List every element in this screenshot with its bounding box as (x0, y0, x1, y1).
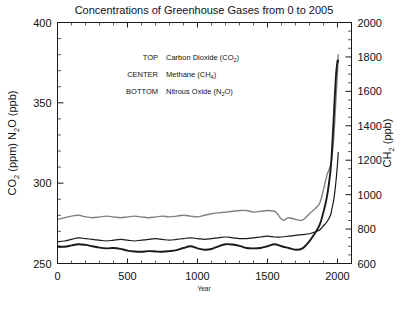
y-left-tick-label-0: 250 (33, 258, 51, 270)
y-right-tick-label-4: 1400 (358, 120, 382, 132)
y-left-tick-label-2: 350 (33, 97, 51, 109)
legend-position-key: CENTER (127, 70, 158, 79)
y-right-tick-label-0: 600 (358, 258, 376, 270)
x-tick-label-4: 2000 (325, 270, 349, 282)
legend-gas-label: Methane (CH4) (166, 70, 217, 80)
y-right-tick-label-2: 1000 (358, 189, 382, 201)
legend-gas-label: Carbon Dioxide (CO2) (166, 53, 240, 63)
chart-background (0, 0, 405, 309)
y-right-tick-label-3: 1200 (358, 154, 382, 166)
y-right-tick-label-1: 800 (358, 223, 376, 235)
legend-entry-bottom: BOTTOMNitrous Oxide (N2O) (126, 87, 233, 97)
x-axis-title: Year (197, 285, 211, 292)
y-right-tick-label-7: 2000 (358, 17, 382, 29)
x-tick-label-1: 500 (118, 270, 136, 282)
x-tick-label-3: 1500 (255, 270, 279, 282)
legend-position-key: BOTTOM (126, 87, 158, 96)
chart-canvas: Concentrations of Greenhouse Gases from … (0, 0, 405, 309)
y-left-tick-label-1: 300 (33, 177, 51, 189)
x-tick-label-0: 0 (54, 270, 60, 282)
x-tick-label-2: 1000 (185, 270, 209, 282)
y-right-tick-label-6: 1800 (358, 51, 382, 63)
y-right-tick-label-5: 1600 (358, 85, 382, 97)
legend-position-key: TOP (143, 53, 158, 62)
greenhouse-gas-chart-figure: Concentrations of Greenhouse Gases from … (0, 0, 405, 309)
chart-title: Concentrations of Greenhouse Gases from … (75, 4, 334, 16)
legend-entry-top: TOPCarbon Dioxide (CO2) (143, 53, 240, 63)
y-left-tick-label-3: 400 (33, 17, 51, 29)
legend-entry-center: CENTERMethane (CH4) (127, 70, 217, 80)
